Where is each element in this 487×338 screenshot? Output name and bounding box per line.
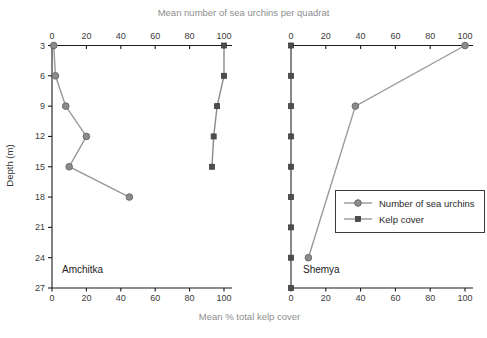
bottom-axis-tick-label: 40 (116, 293, 126, 303)
kelp-cover-point (289, 104, 294, 109)
depth-axis-tick-label: 24 (35, 253, 45, 263)
sea-urchin-point (126, 194, 133, 201)
sea-urchin-point (352, 103, 359, 110)
top-axis-tick-label: 0 (49, 31, 54, 41)
legend-item-sea-urchins: Number of sea urchins (343, 195, 475, 211)
top-axis-tick-label: 20 (81, 31, 91, 41)
y-axis-title: Depth (m) (3, 140, 16, 192)
top-axis-tick-label: 80 (185, 31, 195, 41)
kelp-cover-point (289, 134, 294, 139)
kelp-cover-point (289, 255, 294, 260)
depth-axis-tick-label: 6 (40, 71, 45, 81)
kelp-cover-point (289, 164, 294, 169)
bottom-axis-tick-label: 20 (321, 293, 331, 303)
kelp-line-marker-icon (343, 214, 373, 224)
depth-axis-tick-label: 18 (35, 192, 45, 202)
kelp-cover-point (289, 43, 294, 48)
top-axis-tick-label: 80 (425, 31, 435, 41)
bottom-axis-tick-label: 80 (185, 293, 195, 303)
depth-axis-tick-label: 12 (35, 131, 45, 141)
top-axis-tick-label: 20 (321, 31, 331, 41)
sea-urchin-point (52, 73, 59, 80)
kelp-cover-point (289, 195, 294, 200)
legend-label-sea-urchins: Number of sea urchins (379, 198, 475, 209)
bottom-axis-tick-label: 40 (356, 293, 366, 303)
bottom-axis-tick-label: 20 (81, 293, 91, 303)
kelp-cover-point (289, 225, 294, 230)
bottom-axis-tick-label: 80 (425, 293, 435, 303)
kelp-cover-point (222, 43, 227, 48)
bottom-axis-tick-label: 100 (457, 293, 472, 303)
top-axis-tick-label: 40 (116, 31, 126, 41)
top-axis-tick-label: 0 (288, 31, 293, 41)
bottom-axis-tick-label: 100 (216, 293, 231, 303)
kelp-cover-point (215, 104, 220, 109)
bottom-axis-tick-label: 60 (150, 293, 160, 303)
bottom-axis-tick-label: 0 (288, 293, 293, 303)
kelp-cover-point (289, 286, 294, 291)
sea-urchin-line-amchitka (54, 46, 130, 198)
bottom-axis-tick-label: 0 (49, 293, 54, 303)
urchin-line-marker-icon (343, 198, 373, 208)
dual-panel-depth-profile-chart: 0020204040606080801001003691215182124270… (0, 0, 487, 338)
top-axis-tick-label: 40 (356, 31, 366, 41)
bottom-axis-tick-label: 60 (390, 293, 400, 303)
depth-axis-tick-label: 3 (40, 41, 45, 51)
top-axis-tick-label: 60 (390, 31, 400, 41)
kelp-cover-point (209, 164, 214, 169)
sea-urchin-point (62, 103, 69, 110)
bottom-axis-title: Mean % total kelp cover (0, 311, 487, 322)
legend-item-kelp-cover: Kelp cover (343, 211, 475, 227)
figure-sea-urchin-kelp-depth-profiles: 0020204040606080801001003691215182124270… (0, 0, 487, 338)
sea-urchin-point (50, 42, 57, 49)
kelp-cover-point (222, 73, 227, 78)
kelp-cover-point (211, 134, 216, 139)
sea-urchin-point (83, 133, 90, 140)
panel-shemya: 002020404060608080100100 (288, 31, 473, 303)
panel-label-shemya: Shemya (303, 264, 340, 275)
top-axis-title: Mean number of sea urchins per quadrat (0, 7, 487, 18)
panel-label-amchitka: Amchitka (62, 264, 103, 275)
depth-axis-tick-label: 27 (35, 283, 45, 293)
kelp-cover-point (289, 73, 294, 78)
top-axis-tick-label: 60 (150, 31, 160, 41)
depth-axis-tick-label: 21 (35, 222, 45, 232)
top-axis-tick-label: 100 (457, 31, 472, 41)
legend: Number of sea urchins Kelp cover (335, 190, 485, 233)
legend-label-kelp-cover: Kelp cover (379, 214, 424, 225)
depth-axis-tick-label: 9 (40, 101, 45, 111)
top-axis-tick-label: 100 (216, 31, 231, 41)
sea-urchin-point (305, 254, 312, 261)
sea-urchin-point (462, 42, 469, 49)
depth-axis-tick-label: 15 (35, 162, 45, 172)
panel-amchitka: 002020404060608080100100369121518212427 (35, 31, 232, 303)
sea-urchin-point (66, 163, 73, 170)
